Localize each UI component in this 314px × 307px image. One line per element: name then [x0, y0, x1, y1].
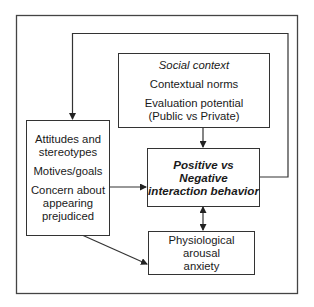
evaluation-potential-label: Evaluation potential: [145, 97, 244, 110]
attitudes-label-line2: stereotypes: [39, 146, 97, 159]
contextual-norms-label: Contextual norms: [150, 78, 239, 91]
arousal-label-line2: anxiety: [184, 260, 220, 273]
concern-label-line2: appearing: [43, 197, 93, 210]
arousal-box: Physiological arousal anxiety: [148, 231, 255, 275]
individual-factors-box: Attitudes and stereotypes Motives/goals …: [26, 120, 110, 236]
attitudes-label-line1: Attitudes and: [35, 133, 101, 146]
concern-label-line1: Concern about: [31, 184, 105, 197]
motives-goals-label: Motives/goals: [33, 165, 102, 178]
concern-label-line3: prejudiced: [42, 210, 94, 223]
behavior-label-line1: Positive vs Negative: [148, 158, 259, 184]
social-context-box: Social context Contextual norms Evaluati…: [118, 53, 270, 128]
behavior-label-line2: interaction behavior: [148, 184, 259, 197]
public-private-label: (Public vs Private): [148, 110, 239, 123]
behavior-box: Positive vs Negative interaction behavio…: [147, 148, 260, 207]
factors-to-arousal-arrow: [82, 235, 147, 264]
social-context-heading: Social context: [159, 59, 229, 72]
arousal-label-line1: Physiological arousal: [149, 234, 254, 260]
